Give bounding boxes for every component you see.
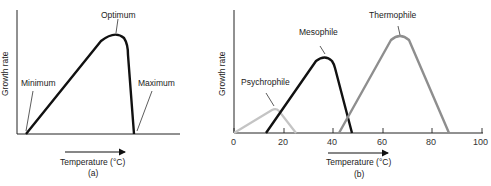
thermophile-pointer: [398, 26, 400, 35]
panel-b-ticks: [234, 128, 482, 133]
optimum-label: Optimum: [101, 10, 135, 20]
panel-a-y-axis-title: Growth rate: [0, 51, 10, 96]
psychrophile-pointer: [266, 93, 274, 106]
svg-text:20: 20: [278, 137, 288, 147]
panel-a-caption: (a): [88, 168, 99, 178]
mesophile-label: Mesophile: [299, 27, 338, 37]
thermophile-label: Thermophile: [369, 10, 417, 20]
panel-b: 0 20 40 60 80 100 Psychrophile Mesophile…: [217, 10, 488, 179]
svg-text:40: 40: [327, 137, 337, 147]
svg-text:0: 0: [231, 137, 236, 147]
mesophile-curve: [266, 58, 352, 134]
psychrophile-curve: [234, 109, 296, 133]
minimum-label: Minimum: [21, 78, 55, 88]
thermophile-curve: [339, 36, 449, 133]
panel-b-caption: (b): [354, 169, 365, 179]
svg-text:100: 100: [473, 137, 488, 147]
panel-b-tick-labels: 0 20 40 60 80 100: [231, 137, 488, 147]
svg-text:60: 60: [377, 137, 387, 147]
mesophile-pointer: [320, 46, 325, 54]
maximum-label: Maximum: [138, 78, 175, 88]
maximum-pointer: [137, 91, 152, 131]
svg-text:80: 80: [426, 137, 436, 147]
figure: Minimum Optimum Maximum Growth rate Temp…: [0, 0, 491, 186]
panel-a: Minimum Optimum Maximum Growth rate Temp…: [0, 10, 180, 178]
panel-b-x-axis-title: Temperature (°C): [326, 157, 391, 167]
optimum-pointer: [116, 19, 118, 33]
panel-a-x-axis-title: Temperature (°C): [60, 157, 125, 167]
psychrophile-label: Psychrophile: [241, 77, 290, 87]
panel-b-y-axis-title: Growth rate: [217, 51, 227, 96]
